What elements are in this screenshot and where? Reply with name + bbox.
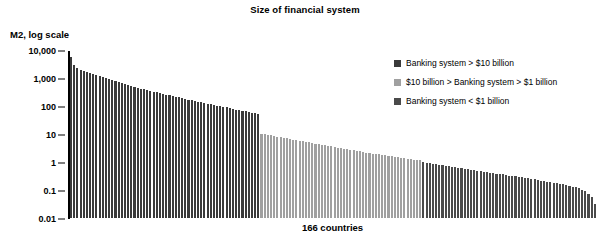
bar — [203, 103, 205, 218]
bar — [200, 102, 202, 218]
y-tick-mark — [58, 51, 65, 52]
bar — [483, 172, 485, 218]
y-tick-label: 10,000 — [28, 46, 56, 56]
bar — [495, 174, 497, 218]
bar — [489, 173, 491, 218]
chart-legend: Banking system > $10 billion$10 billion … — [394, 58, 606, 115]
bar — [330, 146, 332, 218]
bar — [222, 107, 224, 218]
bar — [254, 113, 256, 218]
bar — [365, 153, 367, 218]
y-axis-label: M2, log scale — [10, 29, 69, 40]
bar — [181, 98, 183, 218]
bar — [137, 88, 139, 218]
bar — [562, 184, 564, 218]
bar — [368, 153, 370, 218]
bar — [197, 102, 199, 218]
y-tick-mark — [58, 191, 65, 192]
bar — [438, 165, 440, 218]
bar — [413, 160, 415, 218]
bar — [346, 149, 348, 218]
bar — [372, 154, 374, 218]
bar — [264, 134, 266, 218]
bar — [207, 104, 209, 218]
bar — [508, 176, 510, 218]
bar — [514, 176, 516, 218]
y-tick-mark — [58, 107, 65, 108]
bar — [502, 174, 504, 218]
bar — [70, 57, 72, 218]
bar — [581, 190, 583, 218]
bar — [334, 147, 336, 218]
y-tick-mark — [58, 163, 65, 164]
bar — [445, 166, 447, 218]
bar — [470, 170, 472, 218]
bar — [362, 152, 364, 218]
bar — [280, 137, 282, 218]
bar — [143, 89, 145, 218]
bar — [191, 100, 193, 218]
bar — [540, 181, 542, 218]
bar — [95, 75, 97, 218]
bar — [210, 104, 212, 218]
bar — [511, 176, 513, 218]
bar — [108, 79, 110, 218]
bar — [172, 96, 174, 218]
bar — [397, 157, 399, 218]
bar — [267, 135, 269, 218]
bar — [559, 184, 561, 218]
bar — [216, 106, 218, 219]
legend-item-medium: $10 billion > Banking system > $1 billio… — [394, 77, 606, 88]
bar — [270, 135, 272, 218]
bar — [403, 158, 405, 218]
bar — [527, 178, 529, 218]
bar — [467, 169, 469, 218]
bar — [546, 182, 548, 218]
y-tick-label: 10 — [46, 130, 56, 140]
bar — [153, 92, 155, 218]
bar — [114, 81, 116, 218]
bar — [111, 80, 113, 218]
bar — [410, 159, 412, 218]
bar — [572, 187, 574, 218]
bar — [83, 71, 85, 218]
y-tick-label: 1,000 — [33, 74, 56, 84]
bar — [451, 167, 453, 218]
bar — [146, 90, 148, 218]
bar — [480, 171, 482, 218]
bar — [473, 170, 475, 218]
legend-label: $10 billion > Banking system > $1 billio… — [406, 77, 557, 88]
bar — [165, 95, 167, 218]
bar — [299, 141, 301, 218]
bar — [121, 83, 123, 218]
bar — [568, 186, 570, 218]
bar — [127, 85, 129, 218]
bar — [308, 142, 310, 218]
bar — [89, 73, 91, 218]
bar — [283, 138, 285, 218]
y-tick-label: 100 — [41, 102, 56, 112]
bar — [286, 138, 288, 218]
bar — [400, 158, 402, 218]
legend-label: Banking system > $10 billion — [406, 58, 514, 69]
legend-swatch-icon — [394, 79, 401, 86]
bar — [391, 156, 393, 218]
bar — [584, 191, 586, 218]
legend-label: Banking system < $1 billion — [406, 96, 509, 107]
y-tick-label: 1 — [51, 158, 56, 168]
bar — [435, 164, 437, 218]
bar — [549, 182, 551, 218]
bar — [184, 99, 186, 218]
bar — [454, 167, 456, 218]
bar — [314, 144, 316, 218]
bar — [457, 168, 459, 218]
bar — [524, 178, 526, 218]
bar — [140, 89, 142, 218]
bar — [289, 139, 291, 218]
bar — [499, 174, 501, 218]
bar — [219, 106, 221, 218]
legend-swatch-icon — [394, 60, 401, 67]
bar — [86, 72, 88, 218]
bar — [464, 169, 466, 218]
bar — [187, 100, 189, 218]
